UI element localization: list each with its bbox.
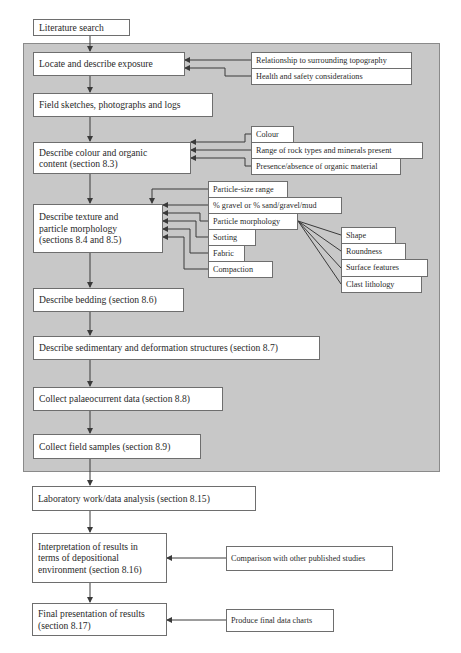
input-shape: Shape [341,227,396,244]
step-describe-structures: Describe sedimentary and deformation str… [33,336,320,360]
input-colour: Colour [251,126,294,143]
input-fabric: Fabric [208,245,245,262]
input-particle-morphology: Particle morphology [208,213,298,230]
step-literature-search: Literature search [33,19,130,36]
input-roundness: Roundness [341,243,406,260]
input-sorting: Sorting [208,229,256,246]
input-health-safety: Health and safety considerations [251,68,412,85]
input-compaction: Compaction [208,261,273,278]
step-palaeocurrent: Collect palaeocurrent data (section 8.8) [33,387,223,411]
step-describe-bedding: Describe bedding (section 8.6) [33,288,184,312]
input-topography: Relationship to surrounding topography [251,52,412,69]
step-final-presentation: Final presentation of results (section 8… [32,603,167,636]
step-interpretation: Interpretation of results in terms of de… [32,533,167,583]
step-laboratory-work: Laboratory work/data analysis (section 8… [32,486,256,511]
step-locate-exposure: Locate and describe exposure [33,52,185,76]
input-final-data-charts: Produce final data charts [226,609,334,632]
step-field-sketches: Field sketches, photographs and logs [33,93,213,117]
step-field-samples: Collect field samples (section 8.9) [33,434,201,459]
input-comparison-studies: Comparison with other published studies [226,546,393,571]
step-describe-texture: Describe texture and particle morphology… [33,204,163,253]
input-gravel-percent: % gravel or % sand/gravel/mud [208,197,342,214]
input-particle-size: Particle-size range [208,181,288,198]
input-surface-features: Surface features [341,259,428,277]
input-clast-lithology: Clast lithology [341,276,422,293]
input-organic-material: Presence/absence of organic material [251,158,401,175]
input-rock-types: Range of rock types and minerals present [251,142,423,159]
step-describe-colour: Describe colour and organic content (sec… [33,142,191,174]
